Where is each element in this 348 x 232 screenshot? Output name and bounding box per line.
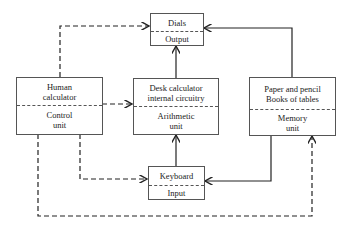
paper-label-line1: Paper and pencil xyxy=(264,84,321,94)
box-divider xyxy=(17,105,102,106)
human-label-line1: Human xyxy=(47,82,72,92)
memory-label-line1: Memory xyxy=(278,113,307,123)
output-label: Output xyxy=(151,31,203,46)
desk-calculator-label: Desk calculator internal circuitry xyxy=(134,81,218,105)
edge-control-to-output xyxy=(60,26,149,77)
desk-label-line1: Desk calculator xyxy=(149,83,202,93)
arithmetic-label-line1: Arithmetic xyxy=(158,111,195,121)
human-control-box: Human calculator Control unit xyxy=(16,77,103,135)
input-label: Input xyxy=(149,185,204,200)
edge-memory-to-input xyxy=(205,135,271,181)
control-label-line1: Control xyxy=(47,110,73,120)
arithmetic-unit-label: Arithmetic unit xyxy=(134,108,218,134)
memory-label-line2: unit xyxy=(286,123,299,133)
dials-output-box: Dials Output xyxy=(150,13,204,46)
paper-pencil-label: Paper and pencil Books of tables xyxy=(250,81,335,107)
keyboard-label: Keyboard xyxy=(149,167,204,185)
arithmetic-label-line2: unit xyxy=(169,121,182,131)
keyboard-input-box: Keyboard Input xyxy=(148,166,205,200)
dials-label: Dials xyxy=(151,14,203,31)
desk-arithmetic-box: Desk calculator internal circuitry Arith… xyxy=(133,78,219,135)
paper-memory-box: Paper and pencil Books of tables Memory … xyxy=(249,77,336,136)
box-divider xyxy=(134,106,218,107)
control-label-line2: unit xyxy=(53,120,66,130)
human-calculator-label: Human calculator xyxy=(17,80,102,104)
edge-memory-to-output xyxy=(204,28,292,77)
human-label-line2: calculator xyxy=(43,92,77,102)
edge-control-to-input xyxy=(80,134,147,179)
control-unit-label: Control unit xyxy=(17,107,102,133)
memory-unit-label: Memory unit xyxy=(250,110,335,136)
desk-label-line2: internal circuitry xyxy=(148,93,205,103)
paper-label-line2: Books of tables xyxy=(266,94,319,104)
